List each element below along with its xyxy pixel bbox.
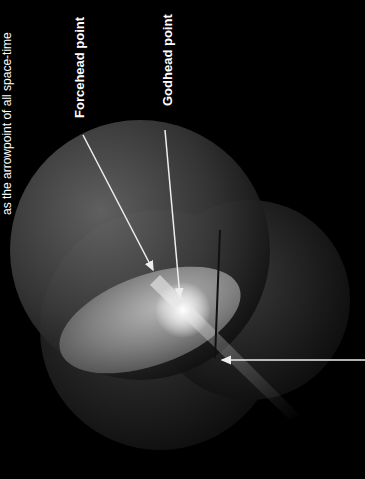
godhead-label: Godhead point <box>160 14 175 106</box>
forcehead-label: Forcehead point <box>72 17 87 118</box>
arrows <box>0 0 365 479</box>
diagram-stage: as the arrowpoint of all space-time Forc… <box>0 0 365 479</box>
godhead-arrow <box>165 130 180 297</box>
forcehead-arrow <box>83 135 153 270</box>
caption-text: as the arrowpoint of all space-time <box>0 32 14 215</box>
